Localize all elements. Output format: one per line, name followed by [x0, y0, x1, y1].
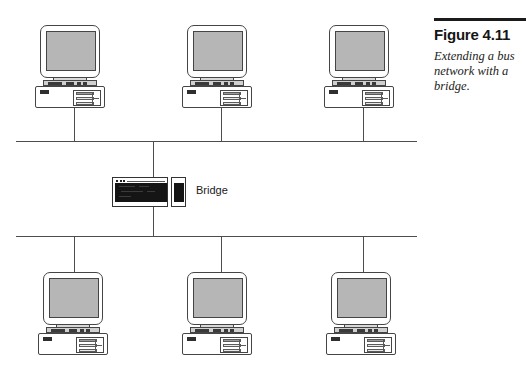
computer-bottom-1: [36, 272, 110, 356]
power-badge-icon: [329, 90, 338, 94]
vent-icon: [48, 82, 62, 84]
vent-icon: [83, 82, 87, 84]
vent-icon: [213, 329, 221, 331]
drop-line-top-3: [363, 108, 364, 142]
figure-caption-block: Figure 4.11 Extending a bus network with…: [434, 18, 526, 95]
bridge-chassis: [112, 177, 168, 207]
monitor-screen: [46, 31, 96, 71]
bridge-face: [115, 183, 167, 202]
lower-bus-line: [16, 236, 417, 237]
drive-divider: [240, 98, 246, 99]
vent-icon: [230, 82, 234, 84]
vent-icon: [224, 82, 228, 84]
vent-icon: [357, 329, 365, 331]
power-badge-icon: [187, 337, 196, 341]
system-unit: [38, 333, 108, 355]
network-diagram: Bridge: [0, 0, 420, 375]
vent-icon: [368, 329, 372, 331]
monitor: [43, 272, 103, 325]
drop-line-bottom-3: [363, 236, 364, 273]
vent-icon: [339, 329, 353, 331]
caption-rule: [434, 18, 526, 21]
vent-icon: [372, 82, 376, 84]
vent-icon: [366, 82, 370, 84]
monitor: [331, 272, 391, 325]
vent-icon: [80, 329, 84, 331]
drive-panel: [73, 90, 101, 106]
monitor: [187, 25, 247, 78]
figure-number: Figure 4.11: [434, 27, 526, 43]
vent-icon: [224, 329, 228, 331]
drop-line-top-1: [74, 108, 75, 142]
upper-bus-line: [16, 141, 417, 142]
monitor-screen: [193, 278, 243, 318]
bridge-downlink-line: [153, 206, 154, 237]
vent-icon: [66, 82, 74, 84]
drive-panel: [76, 337, 104, 353]
bridge-label: Bridge: [196, 184, 228, 196]
vent-icon: [213, 82, 221, 84]
caption-line-2: network with a: [434, 64, 526, 79]
computer-bottom-3: [324, 272, 398, 356]
drive-divider: [382, 98, 388, 99]
monitor-screen: [49, 278, 99, 318]
computer-bottom-2: [180, 272, 254, 356]
vent-icon: [86, 329, 90, 331]
power-badge-icon: [331, 337, 340, 341]
vent-icon: [374, 329, 378, 331]
vent-icon: [195, 329, 209, 331]
monitor: [329, 25, 389, 78]
monitor-screen: [193, 31, 243, 71]
computer-top-2: [180, 25, 254, 109]
vent-icon: [230, 329, 234, 331]
vent-icon: [195, 82, 209, 84]
figure-caption-text: Extending a bus network with a bridge.: [434, 49, 526, 95]
drive-panel: [362, 90, 390, 106]
computer-top-3: [322, 25, 396, 109]
drive-divider: [384, 345, 390, 346]
monitor: [40, 25, 100, 78]
caption-line-3: bridge.: [434, 79, 526, 94]
system-unit: [182, 333, 252, 355]
computer-top-1: [33, 25, 107, 109]
drive-divider: [93, 98, 99, 99]
drive-panel: [220, 90, 248, 106]
power-badge-icon: [43, 337, 52, 341]
vent-icon: [69, 329, 77, 331]
system-unit: [35, 86, 105, 108]
drop-line-bottom-1: [74, 236, 75, 273]
drop-line-top-2: [221, 108, 222, 142]
system-unit: [324, 86, 394, 108]
drive-divider: [240, 345, 246, 346]
bridge-device: Bridge: [112, 177, 186, 207]
system-unit: [326, 333, 396, 355]
power-badge-icon: [40, 90, 49, 94]
drive-panel: [220, 337, 248, 353]
drive-panel: [364, 337, 392, 353]
vent-icon: [355, 82, 363, 84]
figure-container: Bridge: [0, 0, 526, 375]
bridge-uplink-line: [153, 141, 154, 178]
drive-divider: [96, 345, 102, 346]
vent-icon: [51, 329, 65, 331]
monitor-screen: [337, 278, 387, 318]
vent-icon: [337, 82, 351, 84]
monitor: [187, 272, 247, 325]
system-unit: [182, 86, 252, 108]
power-badge-icon: [187, 90, 196, 94]
monitor-screen: [335, 31, 385, 71]
bridge-side-face: [174, 183, 184, 202]
caption-line-1: Extending a bus: [434, 49, 526, 64]
vent-icon: [77, 82, 81, 84]
bridge-side-module: [171, 177, 186, 207]
drop-line-bottom-2: [221, 236, 222, 273]
